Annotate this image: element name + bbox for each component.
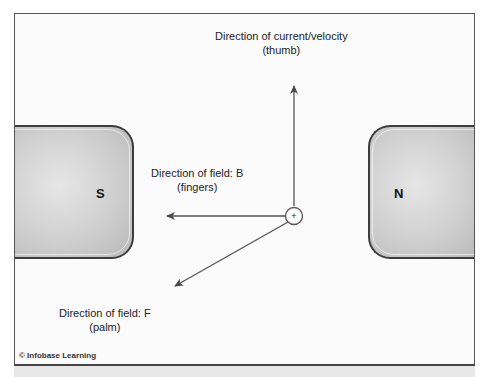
vector-arrows: +	[15, 14, 475, 366]
bottom-strip	[14, 366, 475, 377]
credit-text: © Infobase Learning	[19, 351, 96, 360]
diagram-frame: S N Direction of current/velocity (thumb…	[14, 13, 475, 366]
field-f-arrow-icon	[175, 222, 288, 286]
origin-symbol: +	[291, 211, 296, 221]
